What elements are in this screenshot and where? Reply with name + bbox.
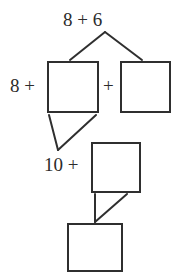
second-step-label: 10 + <box>44 155 78 174</box>
number-bond-diagram: 8 + 6 8 + + 10 + <box>0 0 175 273</box>
branch-right-of-box-down-line <box>58 115 96 150</box>
diagram-canvas <box>0 0 175 273</box>
box-step-two[interactable] <box>92 143 140 192</box>
box-decompose-right[interactable] <box>121 62 170 112</box>
middle-plus-label: + <box>103 76 114 95</box>
branch-top-to-left-box-line <box>70 32 105 60</box>
branch-left-box-down-line <box>49 115 58 150</box>
left-addend-label: 8 + <box>10 76 35 95</box>
box-answer[interactable] <box>68 224 122 271</box>
branch-step-two-right-line <box>95 194 127 222</box>
box-decompose-left[interactable] <box>48 62 98 112</box>
top-expression-label: 8 + 6 <box>63 10 102 29</box>
branch-top-to-right-box-line <box>105 32 142 60</box>
